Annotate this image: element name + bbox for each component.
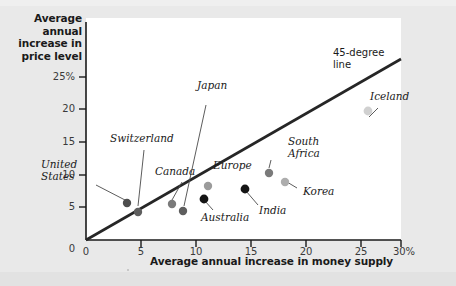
marker-switzerland: [134, 208, 142, 216]
y-axis-title-line-1: Average: [6, 12, 82, 25]
y-axis-title-line-3: increase in: [6, 37, 82, 50]
y-axis-ticks: [79, 77, 86, 207]
marker-australia: [200, 195, 209, 204]
marker-united-states: [123, 199, 131, 207]
x-axis-title: Average annual increase in money supply: [150, 255, 393, 267]
label-south-africa-line-2: Africa: [288, 148, 320, 160]
page-speck: [127, 269, 129, 271]
y-tick-label-25: 25%: [41, 71, 75, 82]
chart-screenshot: Average annual increase in price level 2…: [0, 0, 456, 286]
label-japan: Japan: [197, 80, 227, 92]
label-line-text-1: 45-degree: [333, 47, 384, 59]
y-tick-label-15: 15: [41, 136, 75, 147]
label-switzerland: Switzerland: [110, 133, 174, 145]
marker-europe: [204, 182, 212, 190]
label-india: India: [259, 205, 286, 217]
label-south-africa-line-1: South: [288, 136, 320, 148]
label-canada: Canada: [155, 166, 195, 178]
label-forty-five-degree-line: 45-degree line: [333, 47, 384, 70]
label-korea: Korea: [303, 186, 334, 198]
label-united-states: United States: [41, 159, 77, 182]
y-axis-title-line-2: annual: [6, 25, 82, 38]
label-australia: Australia: [201, 212, 249, 224]
marker-canada: [168, 200, 176, 208]
marker-iceland: [364, 107, 373, 116]
leader-lines: [96, 105, 378, 210]
marker-india: [241, 185, 250, 194]
y-tick-label-5: 5: [41, 201, 75, 212]
label-europe: Europe: [213, 160, 252, 172]
label-iceland: Iceland: [370, 91, 409, 103]
label-line-text-2: line: [333, 59, 384, 71]
y-axis-title-line-4: price level: [6, 50, 82, 63]
marker-korea: [281, 178, 289, 186]
y-axis-title: Average annual increase in price level: [6, 12, 82, 62]
label-united-states-line-2: States: [41, 171, 77, 183]
marker-south-africa: [265, 169, 273, 177]
marker-japan: [179, 207, 187, 215]
y-tick-label-20: 20: [41, 103, 75, 114]
x-tick-label-0: 0: [69, 246, 103, 257]
label-united-states-line-1: United: [41, 159, 77, 171]
label-south-africa: South Africa: [288, 136, 320, 159]
